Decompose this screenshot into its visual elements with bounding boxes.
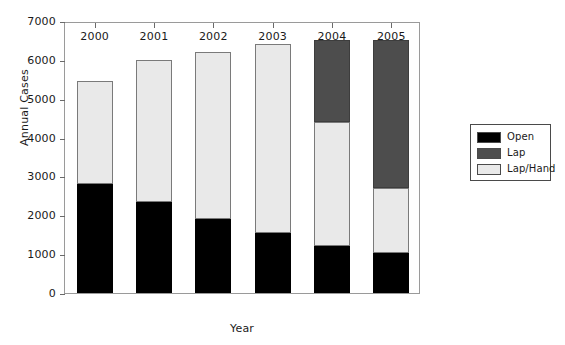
x-tick-label: 2005 xyxy=(361,30,421,43)
plot-area: 01000200030004000500060007000 2000200120… xyxy=(64,22,420,294)
bar-segment[interactable] xyxy=(136,60,172,202)
bar-segment[interactable] xyxy=(373,253,409,293)
y-tick-mark xyxy=(60,177,65,178)
x-tick-mark xyxy=(273,23,274,28)
x-tick-label: 2004 xyxy=(302,30,362,43)
x-tick-mark xyxy=(154,23,155,28)
y-tick-mark xyxy=(60,216,65,217)
y-tick-label: 4000 xyxy=(27,132,56,145)
legend-label: Lap xyxy=(507,147,525,158)
bar-segment[interactable] xyxy=(255,44,291,232)
bar-segment[interactable] xyxy=(195,219,231,293)
bar-segment[interactable] xyxy=(77,184,113,293)
bar-segment[interactable] xyxy=(314,40,350,122)
y-tick-mark xyxy=(60,139,65,140)
y-tick-mark xyxy=(60,294,65,295)
white-swatch xyxy=(477,164,501,175)
bar-stack[interactable] xyxy=(373,21,409,293)
x-tick-mark xyxy=(95,23,96,28)
bar-segment[interactable] xyxy=(373,188,409,253)
y-tick-label: 3000 xyxy=(27,170,56,183)
x-tick-mark xyxy=(391,23,392,28)
y-tick-label: 2000 xyxy=(27,209,56,222)
y-tick-label: 7000 xyxy=(27,15,56,28)
bar-segment[interactable] xyxy=(373,40,409,188)
x-axis-title: Year xyxy=(64,322,420,335)
black-swatch xyxy=(477,132,501,143)
x-tick-label: 2001 xyxy=(124,30,184,43)
bar-stack[interactable] xyxy=(195,21,231,293)
x-tick-mark xyxy=(332,23,333,28)
x-tick-label: 2002 xyxy=(183,30,243,43)
x-tick-label: 2003 xyxy=(243,30,303,43)
y-tick-mark xyxy=(60,22,65,23)
bar-stack[interactable] xyxy=(77,21,113,293)
bar-segment[interactable] xyxy=(77,81,113,184)
bar-stack[interactable] xyxy=(136,21,172,293)
x-tick-label: 2000 xyxy=(65,30,125,43)
bar-segment[interactable] xyxy=(314,122,350,246)
y-tick-label: 5000 xyxy=(27,93,56,106)
bar-segment[interactable] xyxy=(314,246,350,293)
chart-legend: OpenLapLap/Hand xyxy=(470,124,551,181)
y-tick-label: 1000 xyxy=(27,248,56,261)
bar-stack[interactable] xyxy=(314,21,350,293)
x-tick-mark xyxy=(213,23,214,28)
y-tick-mark xyxy=(60,255,65,256)
bar-segment[interactable] xyxy=(195,52,231,219)
y-tick-label: 0 xyxy=(49,287,56,300)
bar-stack[interactable] xyxy=(255,21,291,293)
bar-segment[interactable] xyxy=(136,202,172,293)
legend-label: Lap/Hand xyxy=(507,163,556,174)
y-tick-mark xyxy=(60,61,65,62)
dark-gray-swatch xyxy=(477,148,501,159)
legend-label: Open xyxy=(507,131,534,142)
bar-segment[interactable] xyxy=(255,233,291,293)
y-tick-mark xyxy=(60,100,65,101)
y-tick-label: 6000 xyxy=(27,54,56,67)
